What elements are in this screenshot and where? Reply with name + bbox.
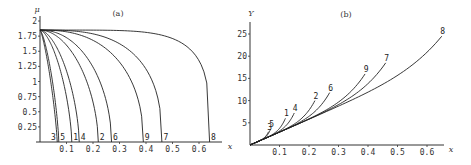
chart-b-curve-6 [250,93,330,145]
chart-a-curve-label: 4 [81,133,86,142]
chart-a-ylabel: μ [34,5,39,14]
chart-a-x-tick-label: 0.2 [86,145,101,154]
chart-b-curve-label: 5 [269,120,274,129]
chart-a-curve-label: 3 [51,133,56,142]
chart-b-curve-7 [250,63,386,145]
chart-a-curve-label: 2 [100,133,105,142]
chart-a-curve-6 [40,30,112,142]
chart-b-x-tick-label: 0.1 [272,148,287,157]
chart-a-curve-3 [40,30,57,142]
chart-b-curve-label: 4 [293,104,298,113]
chart-a-y-tick-label: 0.75 [18,93,37,102]
chart-a-y-tick-label: 0.25 [18,123,37,132]
chart-b-curve-1 [250,118,285,145]
chart-b-curve-8 [250,36,442,145]
chart-a-xlabel: x [228,142,233,151]
chart-b-xlabel: x [449,145,454,154]
chart-a-x-tick-label: 0.6 [192,145,207,154]
chart-b-curve-label: 3 [267,123,272,132]
chart-b-x-tick-label: 0.6 [420,148,435,157]
chart-a-x-tick-label: 0.4 [139,145,154,154]
chart-a-x-tick-label: 0.5 [165,145,180,154]
chart-b-x-tick-label: 0.4 [361,148,376,157]
chart-b-x-tick-label: 0.3 [331,148,346,157]
chart-b-curve-2 [250,101,315,145]
chart-a-title: (a) [112,9,123,18]
chart-a-y-tick-label: 2 [32,17,37,26]
chart-b-ylabel: Y [248,9,254,18]
chart-a-y-tick-label: 1.25 [18,62,37,71]
chart-b-x-tick-label: 0.2 [302,148,317,157]
chart-b-curve-4 [250,113,294,145]
chart-a-curve-label: 1 [73,133,78,142]
chart-a-x-tick-label: 0.1 [59,145,74,154]
chart-b-curve-3 [250,132,269,145]
chart-b-y-tick-label: 25 [237,30,247,39]
chart-a-y-tick-label: 1.5 [23,47,38,56]
chart-a-curve-label: 5 [60,133,65,142]
chart-b-curve-label: 1 [284,109,289,118]
chart-a-curve-7 [40,30,162,142]
chart-b-y-tick-label: 20 [237,52,247,61]
chart-b-title: (b) [340,10,351,19]
chart-a-y-tick-label: 1 [32,78,37,87]
chart-a-curve-label: 6 [113,133,118,142]
chart-a-curve-label: 8 [211,133,216,142]
chart-b-curve-9 [250,74,365,145]
chart-b-x-tick-label: 0.5 [390,148,405,157]
chart-a-x-tick-label: 0.3 [112,145,127,154]
chart-a-y-tick-label: 0.5 [23,108,38,117]
chart-b-curve-5 [250,129,271,145]
chart-b-curve-label: 6 [328,84,333,93]
chart-b-y-tick-label: 5 [242,119,247,128]
chart-a-curve-label: 7 [163,133,168,142]
chart-a-y-tick-label: 1.75 [18,32,37,41]
chart-a: (a) μ x 0.10.20.30.40.50.60.250.50.7511.… [0,0,235,165]
chart-a-curve-label: 9 [145,133,150,142]
chart-b-curve-label: 9 [364,65,369,74]
chart-b-curve-label: 2 [313,92,318,101]
chart-a-curve-2 [40,30,98,142]
chart-b-y-tick-label: 10 [237,97,247,106]
chart-b-curve-label: 8 [440,27,445,36]
chart-b-y-tick-label: 15 [237,74,247,83]
chart-b-curve-label: 7 [384,54,389,63]
chart-a-curve-9 [40,30,143,142]
